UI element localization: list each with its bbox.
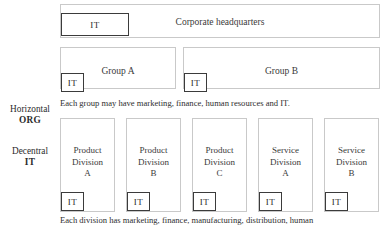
division-1-line1: Product <box>61 145 114 157</box>
it-box-division-5-label: IT <box>332 197 341 207</box>
division-5-label: Service Division B <box>325 145 378 180</box>
division-1-label: Product Division A <box>61 145 114 180</box>
group-caption: Each group may have marketing, finance, … <box>60 98 290 108</box>
it-box-division-3: IT <box>193 192 216 211</box>
division-4-line3: A <box>259 168 312 180</box>
it-box-division-4-label: IT <box>266 197 275 207</box>
group-b-label: Group B <box>184 66 379 77</box>
it-box-division-2-label: IT <box>134 197 143 207</box>
side-label-it-text: IT <box>2 157 58 168</box>
it-box-division-3-label: IT <box>200 197 209 207</box>
side-label-horizontal-org: Horizontal ORG <box>2 104 58 126</box>
division-5-line2: Division <box>325 157 378 169</box>
it-box-division-5: IT <box>325 192 348 211</box>
it-box-group-b: IT <box>184 73 207 92</box>
division-2-line3: B <box>127 168 180 180</box>
division-5-line1: Service <box>325 145 378 157</box>
side-label-org-text: ORG <box>2 115 58 126</box>
it-box-headquarters-label: IT <box>90 20 99 30</box>
org-chart-diagram: Horizontal ORG Decentral IT Corporate he… <box>0 0 385 228</box>
division-2-line1: Product <box>127 145 180 157</box>
division-3-line1: Product <box>193 145 246 157</box>
side-label-decentral-it: Decentral IT <box>2 146 58 168</box>
side-label-decentral-text: Decentral <box>12 146 48 156</box>
division-1-line2: Division <box>61 157 114 169</box>
division-2-line2: Division <box>127 157 180 169</box>
division-5-line3: B <box>325 168 378 180</box>
it-box-headquarters: IT <box>61 13 129 36</box>
division-2-label: Product Division B <box>127 145 180 180</box>
it-box-division-2: IT <box>127 192 150 211</box>
division-3-label: Product Division C <box>193 145 246 180</box>
division-4-line2: Division <box>259 157 312 169</box>
division-1-line3: A <box>61 168 114 180</box>
division-caption: Each division has marketing, finance, ma… <box>60 215 313 225</box>
division-3-line2: Division <box>193 157 246 169</box>
it-box-division-4: IT <box>259 192 282 211</box>
division-4-line1: Service <box>259 145 312 157</box>
group-b-box: Group B <box>183 47 380 89</box>
division-4-label: Service Division A <box>259 145 312 180</box>
side-label-horizontal-text: Horizontal <box>10 104 50 114</box>
it-box-division-1: IT <box>61 192 84 211</box>
it-box-division-1-label: IT <box>68 197 77 207</box>
it-box-group-a-label: IT <box>68 78 77 88</box>
it-box-group-a: IT <box>61 73 84 92</box>
it-box-group-b-label: IT <box>191 78 200 88</box>
division-3-line3: C <box>193 168 246 180</box>
